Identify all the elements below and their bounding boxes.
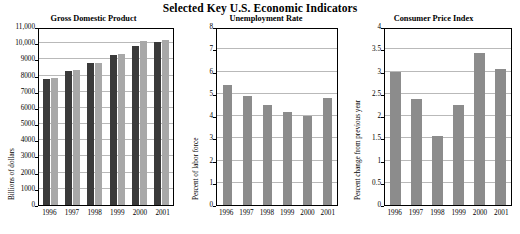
bar [432,136,443,205]
y-tick-mark [35,190,38,191]
y-tick-label: 9000 [7,55,35,63]
y-tick-mark [213,117,216,118]
y-tick-mark [35,44,38,45]
bar [154,42,161,205]
y-tick-label: 1 [191,179,213,187]
figure: Selected Key U.S. Economic Indicators Gr… [0,0,520,234]
x-tick-label: 1999 [448,209,469,217]
plot-area-0 [38,28,174,206]
bar [162,40,169,205]
y-tick-mark [35,125,38,126]
y-tick-mark [213,139,216,140]
bar-group [110,29,125,205]
y-tick-label: 8 [191,23,213,31]
chart-panel-gross-domestic-product: Gross Domestic Product Billions of dolla… [6,14,181,234]
x-tick-label: 2000 [297,209,317,217]
bar-group [132,29,147,205]
bar [283,112,292,205]
x-tick-label: 1998 [257,209,277,217]
y-tick-mark [381,95,384,96]
y-tick-mark [213,206,216,207]
y-axis-label-1: Percent of labor force [192,138,200,200]
y-tick-mark [381,139,384,140]
bar-group [323,29,332,205]
y-tick-label: 4000 [7,136,35,144]
y-tick-label: 3 [191,134,213,142]
y-tick-label: 6 [191,68,213,76]
y-tick-label: 7000 [7,88,35,96]
bar [110,55,117,205]
bar [65,71,72,205]
figure-title: Selected Key U.S. Economic Indicators [0,2,520,14]
y-tick-label: 3.5 [353,45,381,53]
x-axis-ticks-1: 199619971998199920002001 [216,209,338,217]
y-tick-mark [381,162,384,163]
x-tick-label: 1998 [427,209,448,217]
bar-series [217,29,337,205]
y-tick-mark [35,60,38,61]
y-tick-label: 4 [353,23,381,31]
y-tick-label: 2.5 [353,90,381,98]
y-tick-mark [381,28,384,29]
y-tick-mark [35,174,38,175]
bar-group [390,29,401,205]
bar [390,72,401,206]
bar [495,69,506,205]
y-tick-mark [213,73,216,74]
y-tick-mark [213,28,216,29]
y-tick-label: 0 [191,201,213,209]
bar-group [283,29,292,205]
plot-area-1 [216,28,338,206]
bar-group [495,29,506,205]
y-tick-mark [35,28,38,29]
y-tick-label: 0 [7,201,35,209]
y-tick-label: 2000 [7,169,35,177]
y-tick-mark [213,50,216,51]
y-tick-mark [213,162,216,163]
x-tick-label: 1997 [236,209,256,217]
bar-series [39,29,173,205]
y-tick-label: 1 [353,157,381,165]
bar-group [263,29,272,205]
bar-group [43,29,58,205]
x-tick-label: 2001 [151,209,174,217]
y-tick-label: 10,000 [7,39,35,47]
bar-group [303,29,312,205]
y-tick-label: 1000 [7,185,35,193]
bar [411,99,422,205]
bar [118,54,125,205]
x-tick-label: 1999 [277,209,297,217]
bar-group [87,29,102,205]
y-tick-mark [381,184,384,185]
y-tick-label: 0.5 [353,179,381,187]
bar [132,46,139,205]
x-tick-label: 2001 [318,209,338,217]
bar-group [453,29,464,205]
bar-group [432,29,443,205]
y-tick-label: 4 [191,112,213,120]
x-tick-label: 1996 [216,209,236,217]
y-tick-mark [35,77,38,78]
y-tick-label: 1.5 [353,134,381,142]
bar-group [154,29,169,205]
bar-group [411,29,422,205]
y-tick-label: 3000 [7,152,35,160]
x-tick-label: 2001 [491,209,512,217]
x-axis-ticks-2: 199619971998199920002001 [384,209,512,217]
y-tick-mark [381,206,384,207]
bar [243,96,252,205]
bar-group [223,29,232,205]
y-tick-mark [381,73,384,74]
chart-panel-consumer-price-index: Consumer Price Index Percent change from… [352,14,515,234]
chart-title-0: Gross Domestic Product [6,14,181,23]
bar [95,63,102,205]
y-tick-label: 0 [353,201,381,209]
x-tick-label: 1997 [405,209,426,217]
y-tick-mark [35,157,38,158]
y-tick-mark [35,206,38,207]
y-tick-mark [35,93,38,94]
bar [223,85,232,205]
y-tick-label: 6000 [7,104,35,112]
bar [87,63,94,205]
x-tick-label: 2000 [469,209,490,217]
